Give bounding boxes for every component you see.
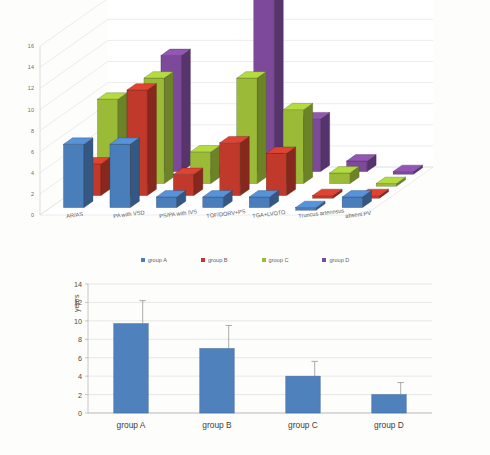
chart-3d-y-tick: 4: [18, 170, 34, 176]
legend-swatch-icon: [262, 258, 266, 262]
chart-2d-bar: [114, 324, 148, 413]
chart-3d-legend-item: group C: [262, 257, 289, 263]
chart-3d-y-tick: 6: [18, 149, 34, 155]
chart-3d-y-tick: 0: [18, 212, 34, 218]
chart-2d-x-tick: group A: [88, 420, 174, 430]
chart-2d-y-tick: 0: [68, 409, 82, 418]
chart-2d-y-tick: 14: [68, 280, 82, 289]
chart-2d-bar: [372, 395, 406, 413]
figure-container: 0246810121416 AR/ASPA with VSDPS/PA with…: [0, 0, 490, 455]
chart-3d-grouped-bar: 0246810121416 AR/ASPA with VSDPS/PA with…: [0, 0, 490, 272]
chart-2d-x-tick: group B: [174, 420, 260, 430]
chart-2d-y-tick: 4: [68, 372, 82, 381]
chart-2d-bar: 02468101214 group Agroup Bgroup Cgroup D…: [0, 272, 490, 455]
legend-swatch-icon: [141, 258, 145, 262]
chart-2d-y-tick: 6: [68, 354, 82, 363]
chart-3d-legend-item: group A: [141, 257, 167, 263]
legend-swatch-icon: [322, 258, 326, 262]
chart-3d-legend: group Agroup Bgroup Cgroup D: [0, 252, 490, 268]
chart-3d-legend-label: group B: [208, 257, 228, 263]
chart-3d-plot-area: 0246810121416 AR/ASPA with VSDPS/PA with…: [0, 0, 490, 250]
chart-3d-y-tick: 10: [18, 107, 34, 113]
chart-2d-y-tick: 2: [68, 391, 82, 400]
chart-2d-y-tick: 10: [68, 317, 82, 326]
chart-3d-y-tick: 12: [18, 85, 34, 91]
chart-2d-x-tick: group C: [260, 420, 346, 430]
chart-3d-y-tick: 16: [18, 43, 34, 49]
chart-3d-y-tick: 2: [18, 191, 34, 197]
chart-3d-legend-label: group D: [329, 257, 349, 263]
chart-2d-bar: [200, 349, 234, 414]
chart-2d-bar: [286, 376, 320, 413]
chart-2d-y-axis-label: years: [72, 294, 81, 312]
chart-3d-legend-label: group A: [148, 257, 167, 263]
chart-3d-legend-item: group B: [201, 257, 228, 263]
chart-3d-y-tick: 8: [18, 128, 34, 134]
chart-2d-y-tick: 8: [68, 335, 82, 344]
chart-3d-legend-item: group D: [322, 257, 349, 263]
chart-2d-x-tick: group D: [346, 420, 432, 430]
legend-swatch-icon: [201, 258, 205, 262]
chart-3d-y-tick: 14: [18, 64, 34, 70]
chart-3d-legend-label: group C: [269, 257, 289, 263]
